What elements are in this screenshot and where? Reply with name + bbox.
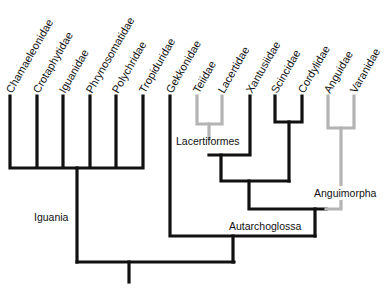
anguimorpha-bracket — [328, 96, 354, 128]
scincoidea-branches — [275, 96, 302, 122]
clade-label-anguimorpha: Anguimorpha — [314, 187, 377, 199]
taxon-label-chamaeleonidae: Chamaeleonidae — [3, 17, 55, 95]
clade-label-autarchoglossa: Autarchoglossa — [229, 220, 302, 232]
clade-label-iguania: Iguania — [34, 211, 69, 223]
clade-label-lacertiformes: Lacertiformes — [176, 135, 240, 147]
taxon-labels: Chamaeleonidae Crotaphytidae Iguanidae P… — [3, 15, 382, 95]
teiidae-lacertidae-bracket — [197, 96, 222, 124]
iguania-clade-branches — [10, 96, 143, 168]
lacertiformes-xantusiidae-stem — [221, 155, 289, 181]
branches-primary — [10, 96, 326, 282]
phylogeny-tree: Chamaeleonidae Crotaphytidae Iguanidae P… — [0, 0, 389, 288]
clade-labels: Iguania Lacertiformes Anguimorpha Autarc… — [34, 135, 377, 232]
taxon-label-teiidae: Teiidae — [190, 59, 218, 95]
gekkonidae-branch — [170, 96, 315, 236]
